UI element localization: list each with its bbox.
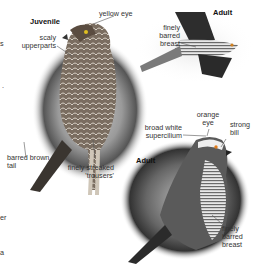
adult-perched-heading: Adult <box>136 156 155 165</box>
label-barred-brown-tail: barred brown tail <box>7 154 49 170</box>
label-finely-barred-breast-flight: finely barred breast <box>140 24 180 48</box>
label-strong-bill: strong bill <box>230 121 250 137</box>
adult-flight-heading: Adult <box>213 8 232 17</box>
cropped-text-fragment: a <box>0 248 4 257</box>
label-broad-white-supercilium: broad white supercilium <box>130 124 182 140</box>
label-scaly-upperparts: scaly upperparts <box>14 34 56 50</box>
juvenile-heading: Juvenile <box>30 17 60 26</box>
cropped-text-fragment: er <box>0 213 6 222</box>
label-yellow-eye: yellow eye <box>99 10 133 18</box>
label-finely-barred-breast-perched: finely barred breast <box>222 225 243 249</box>
label-orange-eye: orange eye <box>192 111 224 127</box>
cropped-text-fragment: s <box>0 39 4 48</box>
label-finely-streaked-trousers: finely streaked 'trousers' <box>60 164 114 180</box>
cropped-text-fragment: . <box>2 81 4 90</box>
adult-flight-hawk-illustration <box>135 12 255 84</box>
